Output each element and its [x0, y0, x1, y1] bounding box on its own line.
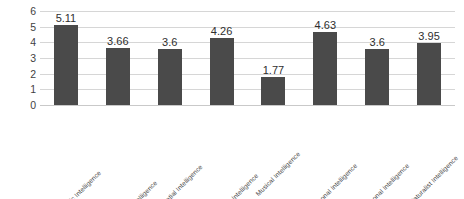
- bar-value-label: 4.26: [211, 25, 232, 37]
- bar: [261, 77, 285, 105]
- axis-baseline: [40, 105, 455, 106]
- bar: [158, 49, 182, 105]
- y-tick-label: 0: [18, 100, 36, 110]
- bar-value-label: 3.6: [162, 36, 177, 48]
- bar-value-label: 1.77: [263, 64, 284, 76]
- bar: [313, 32, 337, 105]
- bar-chart: 0123456 5.113.663.64.261.774.633.63.95 V…: [0, 0, 464, 199]
- x-tick-label: Intrapersonal Intelligence: [352, 162, 411, 199]
- x-tick-label: Bodily/Kinesthetic Intelligence: [190, 172, 259, 199]
- bar-slot: 3.6: [144, 11, 196, 105]
- bar-value-label: 3.66: [107, 35, 128, 47]
- y-tick-label: 1: [18, 84, 36, 94]
- x-tick-label: Musical Intelligence: [255, 150, 302, 197]
- x-axis-labels: Verbal/Linguistic IntelligenceLogical/Ma…: [40, 108, 455, 198]
- bar-slot: 5.11: [40, 11, 92, 105]
- x-tick-label: Interpersonal Intelligence: [300, 162, 359, 199]
- y-tick-label: 3: [18, 53, 36, 63]
- bar-slot: 3.66: [92, 11, 144, 105]
- x-tick-label: Verbal/Linguistic Intelligence: [36, 169, 102, 199]
- y-tick-label: 2: [18, 69, 36, 79]
- bar: [365, 49, 389, 105]
- y-axis: 0123456: [18, 5, 36, 105]
- bar-value-label: 3.95: [418, 30, 439, 42]
- bars-container: 5.113.663.64.261.774.633.63.95: [40, 11, 455, 105]
- bar-value-label: 3.6: [370, 36, 385, 48]
- bar-value-label: 4.63: [315, 19, 336, 31]
- y-tick-label: 6: [18, 6, 36, 16]
- y-tick-label: 5: [18, 22, 36, 32]
- bar: [417, 43, 441, 105]
- x-tick-label: Naturalist Intelligence: [408, 154, 459, 199]
- y-tick-label: 4: [18, 37, 36, 47]
- bar-value-label: 5.11: [56, 12, 77, 24]
- bar-slot: 1.77: [248, 11, 300, 105]
- bar-slot: 3.95: [403, 11, 455, 105]
- bar-slot: 4.63: [299, 11, 351, 105]
- bar-slot: 3.6: [351, 11, 403, 105]
- bar: [54, 25, 78, 105]
- bar: [106, 48, 130, 105]
- bar-slot: 4.26: [196, 11, 248, 105]
- bar: [210, 38, 234, 105]
